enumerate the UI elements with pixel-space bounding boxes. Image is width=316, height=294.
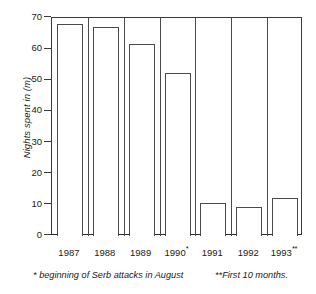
- bar-1991: [200, 203, 226, 236]
- bar-1992: [236, 207, 262, 236]
- x-separator: [160, 18, 161, 236]
- y-tick-label: 70: [0, 12, 42, 22]
- x-separator: [231, 18, 232, 236]
- x-tick-label-text: 1992: [238, 247, 259, 258]
- x-tick-label-text: 1987: [58, 247, 79, 258]
- x-tick-label-1993: 1993**: [266, 247, 302, 258]
- y-tick-mark: [44, 110, 51, 111]
- x-separator: [195, 18, 196, 236]
- y-tick-label: 40: [0, 105, 42, 115]
- x-tick-label-text: 1988: [94, 247, 115, 258]
- y-tick-label: 20: [0, 168, 42, 178]
- footnote-first-10-months: **First 10 months.: [215, 270, 288, 281]
- y-tick-mark: [44, 172, 51, 173]
- bar-1988: [93, 27, 119, 236]
- y-tick-mark: [44, 16, 51, 17]
- x-separator: [88, 18, 89, 236]
- x-tick-label-text: 1991: [202, 247, 223, 258]
- y-tick-label: 30: [0, 137, 42, 147]
- x-tick-label-1991: 1991: [194, 247, 230, 258]
- x-tick-label-1989: 1989: [123, 247, 159, 258]
- x-tick-label-1992: 1992: [230, 247, 266, 258]
- y-tick-mark: [44, 234, 51, 235]
- x-tick-label-text: 1990: [165, 247, 186, 258]
- bar-1993: [272, 198, 298, 236]
- x-tick-label-asterisk: **: [292, 244, 297, 253]
- y-tick-mark: [44, 79, 51, 80]
- bar-1989: [129, 44, 155, 236]
- footnote-serb-attacks: * beginning of Serb attacks in August: [33, 270, 183, 281]
- plot-area: [51, 17, 302, 235]
- x-separator: [124, 18, 125, 236]
- y-tick-label: 60: [0, 43, 42, 53]
- y-tick-label: 10: [0, 199, 42, 209]
- y-tick-mark: [44, 203, 51, 204]
- x-tick-label-text: 1993: [271, 247, 292, 258]
- x-tick-label-1990: 1990*: [159, 247, 195, 258]
- y-tick-label: 50: [0, 74, 42, 84]
- y-axis-title: Nights spent in (m): [21, 48, 32, 188]
- x-tick-label-1987: 1987: [51, 247, 87, 258]
- bar-1987: [57, 24, 83, 236]
- bar-1990: [165, 73, 191, 236]
- x-tick-label-1988: 1988: [87, 247, 123, 258]
- y-tick-mark: [44, 141, 51, 142]
- x-tick-label-asterisk: *: [186, 244, 189, 253]
- x-separator: [267, 18, 268, 236]
- bar-chart-figure: Nights spent in (m) 010203040506070 1987…: [0, 0, 316, 294]
- y-tick-mark: [44, 48, 51, 49]
- x-tick-label-text: 1989: [130, 247, 151, 258]
- y-tick-label: 0: [0, 230, 42, 240]
